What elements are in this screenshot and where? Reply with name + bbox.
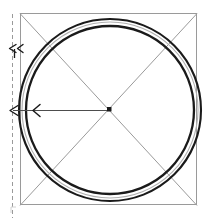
construction-drawing [0,0,210,223]
lower-left-faint-mark [11,207,16,213]
technical-drawing-canvas: Circle and square construction drawing [0,0,210,223]
center-point-marker [107,107,112,112]
